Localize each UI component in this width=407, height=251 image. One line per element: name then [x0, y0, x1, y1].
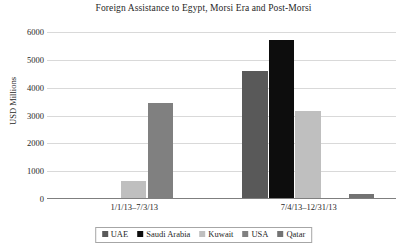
y-axis-tick-labels: 0100020003000400050006000 — [0, 32, 44, 199]
legend-label: Saudi Arabia — [146, 230, 190, 239]
x-axis-category-label: 7/4/13–12/31/13 — [222, 202, 397, 212]
y-axis-tick-label: 5000 — [0, 55, 44, 65]
bar[interactable] — [121, 181, 146, 199]
bar[interactable] — [269, 40, 294, 199]
legend-label: Qatar — [286, 230, 305, 239]
bar[interactable] — [242, 71, 267, 199]
legend-swatch-icon — [137, 231, 143, 237]
plot-area — [47, 32, 396, 199]
bar-group — [68, 32, 201, 199]
y-axis-tick-label: 3000 — [0, 111, 44, 121]
bar-group — [242, 32, 375, 199]
legend-item[interactable]: USA — [242, 230, 268, 239]
legend-swatch-icon — [199, 231, 205, 237]
legend-item[interactable]: Kuwait — [199, 230, 233, 239]
y-axis-tick-label: 4000 — [0, 83, 44, 93]
x-axis-line — [47, 198, 396, 199]
legend-item[interactable]: UAE — [102, 230, 128, 239]
y-axis-tick-label: 1000 — [0, 166, 44, 176]
legend-item[interactable]: Saudi Arabia — [137, 230, 190, 239]
legend-label: UAE — [111, 230, 128, 239]
legend-swatch-icon — [242, 231, 248, 237]
y-axis-tick-label: 2000 — [0, 138, 44, 148]
legend-swatch-icon — [277, 231, 283, 237]
legend-label: Kuwait — [208, 230, 233, 239]
bar[interactable] — [295, 111, 320, 199]
y-axis-tick-label: 0 — [0, 194, 44, 204]
y-axis-tick-label: 6000 — [0, 27, 44, 37]
chart-legend: UAESaudi ArabiaKuwaitUSAQatar — [95, 227, 313, 243]
bar-chart: Foreign Assistance to Egypt, Morsi Era a… — [0, 0, 407, 251]
x-axis-category-label: 1/1/13–7/3/13 — [47, 202, 222, 212]
legend-label: USA — [251, 230, 268, 239]
bar[interactable] — [148, 103, 173, 199]
chart-title: Foreign Assistance to Egypt, Morsi Era a… — [0, 3, 407, 13]
legend-item[interactable]: Qatar — [277, 230, 305, 239]
legend-swatch-icon — [102, 231, 108, 237]
